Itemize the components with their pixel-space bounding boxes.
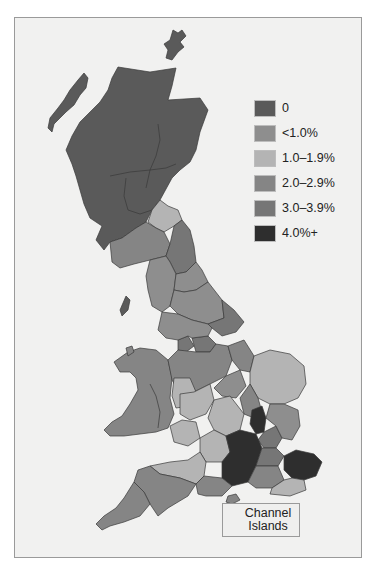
region-bristol bbox=[170, 420, 200, 446]
region-wales bbox=[104, 348, 174, 436]
legend-label: 4.0%+ bbox=[282, 226, 318, 240]
legend-swatch bbox=[254, 125, 276, 142]
legend-label: 0 bbox=[282, 101, 289, 115]
legend-swatch bbox=[254, 150, 276, 167]
legend-item-1-1.9: 1.0–1.9% bbox=[254, 149, 354, 167]
inset-label-line2: Islands bbox=[243, 520, 293, 533]
legend-item-4plus: 4.0%+ bbox=[254, 224, 354, 242]
legend-label: 1.0–1.9% bbox=[282, 151, 335, 165]
legend-swatch bbox=[254, 175, 276, 192]
legend-swatch bbox=[254, 200, 276, 217]
legend-swatch bbox=[254, 225, 276, 242]
legend-item-lt1: <1.0% bbox=[254, 124, 354, 142]
region-lincolnshire bbox=[228, 340, 254, 372]
legend-item-3-3.9: 3.0–3.9% bbox=[254, 199, 354, 217]
channel-islands-inset: Channel Islands bbox=[222, 503, 300, 537]
channel-islands-label: Channel Islands bbox=[243, 507, 293, 533]
region-northern-isles bbox=[164, 30, 186, 60]
region-east-anglia bbox=[250, 350, 306, 404]
region-isle-of-man bbox=[120, 296, 130, 316]
uk-choropleth-map bbox=[0, 0, 380, 571]
region-kent bbox=[284, 450, 322, 480]
legend-label: 3.0–3.9% bbox=[282, 201, 335, 215]
legend-label: 2.0–2.9% bbox=[282, 176, 335, 190]
legend-item-2-2.9: 2.0–2.9% bbox=[254, 174, 354, 192]
legend-swatch bbox=[254, 100, 276, 117]
legend-item-zero: 0 bbox=[254, 99, 354, 117]
region-scotland bbox=[66, 67, 208, 250]
region-bedfordshire bbox=[250, 406, 266, 434]
legend-label: <1.0% bbox=[282, 126, 318, 140]
